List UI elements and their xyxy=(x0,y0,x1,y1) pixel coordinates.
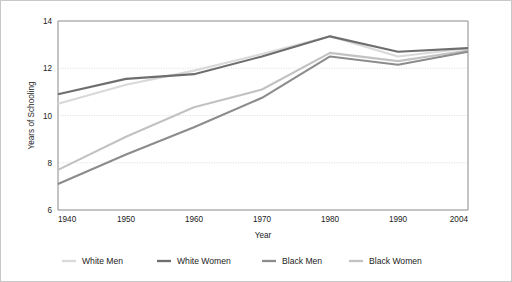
y-axis-title: Years of Schooling xyxy=(27,81,36,149)
x-tick-label-1980: 1980 xyxy=(321,215,340,224)
series-line-black-men xyxy=(58,52,468,184)
line-chart: 681012141940195019601970198019902004Year… xyxy=(0,0,512,282)
x-tick-label-1950: 1950 xyxy=(117,215,136,224)
x-tick-label-1960: 1960 xyxy=(185,215,204,224)
legend-label-black-women: Black Women xyxy=(369,256,422,266)
x-tick-label-1970: 1970 xyxy=(253,215,272,224)
x-tick-label-1990: 1990 xyxy=(389,215,408,224)
legend-label-black-men: Black Men xyxy=(282,256,322,266)
chart-figure: 681012141940195019601970198019902004Year… xyxy=(0,0,512,282)
y-tick-label-14: 14 xyxy=(43,17,53,26)
x-tick-label-2004: 2004 xyxy=(450,215,469,224)
x-tick-label-1940: 1940 xyxy=(58,215,77,224)
legend-label-white-men: White Men xyxy=(82,256,123,266)
x-axis-title: Year xyxy=(255,231,272,240)
y-tick-label-12: 12 xyxy=(43,64,53,73)
y-tick-label-10: 10 xyxy=(43,112,53,121)
y-tick-label-8: 8 xyxy=(47,159,52,168)
legend-label-white-women: White Women xyxy=(177,256,231,266)
series-line-white-men xyxy=(58,36,468,103)
y-tick-label-6: 6 xyxy=(47,206,52,215)
